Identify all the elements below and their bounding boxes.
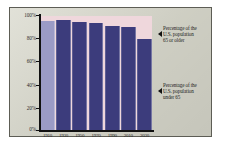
x-axis-line	[39, 130, 154, 132]
x-tick-label-1930: 1930	[56, 133, 71, 138]
y-axis-labels: 100% 80% 60% 40% 20% 0%	[10, 8, 36, 138]
x-axis-labels: 1910 1930 1950 1970 1990 2010 2030	[40, 133, 152, 138]
y-tick-label-0: 0%	[12, 127, 36, 132]
left-arrow-icon	[158, 31, 162, 37]
bar-2010[interactable]	[121, 27, 136, 130]
y-tick-label-40: 40%	[12, 83, 36, 88]
bar-1990[interactable]	[105, 26, 120, 130]
annotation-under-65: Percentage of the U.S. population under …	[158, 82, 218, 101]
plot-area	[40, 16, 152, 130]
annotation-65-or-older: Percentage of the U.S. population 65 or …	[158, 25, 218, 44]
chart-figure: 100% 80% 60% 40% 20% 0%	[0, 0, 228, 150]
bar-2030[interactable]	[137, 39, 152, 130]
annotation-65-or-older-text: Percentage of the U.S. population 65 or …	[163, 25, 197, 44]
x-tick-label-2030: 2030	[137, 133, 152, 138]
x-tick-label-1990: 1990	[105, 133, 120, 138]
x-tick-label-1970: 1970	[89, 133, 104, 138]
x-tick-label-1910: 1910	[40, 133, 55, 138]
bar-1930[interactable]	[56, 20, 71, 130]
y-tick-label-100: 100%	[12, 13, 36, 18]
bar-1910[interactable]	[40, 21, 55, 130]
left-arrow-icon	[158, 88, 162, 94]
annotation-under-65-text: Percentage of the U.S. population under …	[163, 82, 197, 101]
bar-1950[interactable]	[72, 22, 87, 130]
bar-1970[interactable]	[89, 23, 104, 130]
y-tick-label-20: 20%	[12, 106, 36, 111]
x-tick-label-2010: 2010	[121, 133, 136, 138]
chart-panel: 100% 80% 60% 40% 20% 0%	[9, 7, 212, 137]
y-tick-label-80: 80%	[12, 36, 36, 41]
bar-group	[40, 16, 152, 130]
x-tick-label-1950: 1950	[72, 133, 87, 138]
y-tick-label-60: 60%	[12, 59, 36, 64]
y-axis-line	[39, 14, 41, 132]
